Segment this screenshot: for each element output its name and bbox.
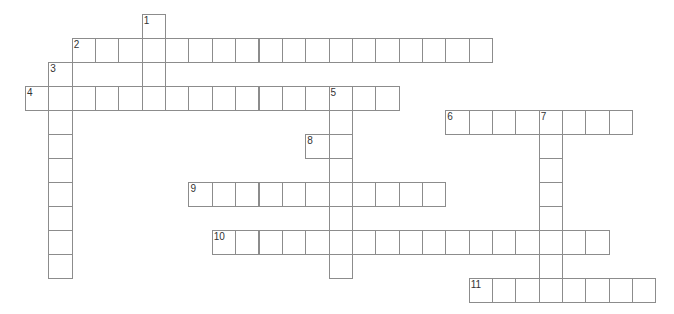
crossword-cell[interactable] [329, 182, 353, 207]
crossword-cell[interactable] [259, 230, 283, 255]
crossword-cell[interactable] [118, 38, 142, 63]
crossword-cell[interactable]: 8 [305, 134, 329, 159]
crossword-cell[interactable]: 3 [48, 62, 72, 87]
crossword-cell[interactable]: 10 [212, 230, 236, 255]
crossword-cell[interactable] [235, 230, 259, 255]
crossword-cell[interactable]: 1 [142, 14, 166, 39]
crossword-cell[interactable] [235, 38, 259, 63]
crossword-cell[interactable] [188, 38, 212, 63]
crossword-cell[interactable] [142, 62, 166, 87]
crossword-cell[interactable] [539, 206, 563, 231]
crossword-cell[interactable] [469, 230, 493, 255]
crossword-cell[interactable] [142, 38, 166, 63]
crossword-cell[interactable] [399, 230, 423, 255]
crossword-cell[interactable] [329, 134, 353, 159]
crossword-cell[interactable] [352, 230, 376, 255]
crossword-cell[interactable] [142, 86, 166, 111]
crossword-cell[interactable] [48, 86, 72, 111]
crossword-cell[interactable] [422, 182, 446, 207]
crossword-cell[interactable] [445, 230, 469, 255]
crossword-cell[interactable] [585, 278, 609, 303]
crossword-cell[interactable] [399, 38, 423, 63]
crossword-cell[interactable] [305, 86, 329, 111]
crossword-cell[interactable] [469, 38, 493, 63]
crossword-cell[interactable] [329, 254, 353, 279]
crossword-cell[interactable] [305, 182, 329, 207]
crossword-cell[interactable]: 7 [539, 110, 563, 135]
crossword-cell[interactable]: 5 [329, 86, 353, 111]
crossword-cell[interactable] [352, 38, 376, 63]
crossword-cell[interactable] [48, 206, 72, 231]
crossword-cell[interactable] [95, 38, 119, 63]
crossword-cell[interactable] [95, 86, 119, 111]
crossword-cell[interactable] [632, 278, 656, 303]
crossword-cell[interactable]: 2 [72, 38, 96, 63]
crossword-cell[interactable] [329, 38, 353, 63]
crossword-cell[interactable] [118, 86, 142, 111]
crossword-cell[interactable]: 6 [445, 110, 469, 135]
clue-number: 9 [190, 183, 196, 194]
crossword-cell[interactable] [422, 38, 446, 63]
crossword-cell[interactable] [212, 38, 236, 63]
crossword-cell[interactable] [469, 110, 493, 135]
crossword-cell[interactable] [235, 182, 259, 207]
crossword-cell[interactable]: 9 [188, 182, 212, 207]
crossword-cell[interactable] [282, 230, 306, 255]
crossword-cell[interactable] [259, 38, 283, 63]
crossword-cell[interactable] [375, 230, 399, 255]
crossword-cell[interactable] [375, 182, 399, 207]
crossword-cell[interactable] [445, 38, 469, 63]
crossword-cell[interactable] [352, 182, 376, 207]
crossword-cell[interactable] [48, 230, 72, 255]
crossword-cell[interactable] [282, 86, 306, 111]
crossword-cell[interactable] [515, 110, 539, 135]
crossword-cell[interactable] [352, 86, 376, 111]
crossword-cell[interactable] [515, 230, 539, 255]
crossword-cell[interactable] [329, 158, 353, 183]
crossword-cell[interactable] [48, 182, 72, 207]
crossword-cell[interactable] [165, 38, 189, 63]
crossword-cell[interactable] [329, 110, 353, 135]
crossword-cell[interactable] [585, 230, 609, 255]
crossword-cell[interactable] [539, 158, 563, 183]
crossword-cell[interactable] [399, 182, 423, 207]
crossword-cell[interactable] [562, 110, 586, 135]
crossword-cell[interactable] [539, 278, 563, 303]
crossword-cell[interactable] [539, 182, 563, 207]
crossword-cell[interactable] [609, 110, 633, 135]
crossword-cell[interactable] [492, 278, 516, 303]
crossword-cell[interactable] [539, 134, 563, 159]
crossword-cell[interactable] [562, 278, 586, 303]
crossword-cell[interactable] [562, 230, 586, 255]
crossword-cell[interactable]: 4 [25, 86, 49, 111]
crossword-cell[interactable] [539, 254, 563, 279]
crossword-cell[interactable] [282, 38, 306, 63]
crossword-cell[interactable] [48, 134, 72, 159]
crossword-cell[interactable] [585, 110, 609, 135]
crossword-cell[interactable] [48, 254, 72, 279]
crossword-cell[interactable] [48, 110, 72, 135]
crossword-cell[interactable] [492, 110, 516, 135]
crossword-cell[interactable] [259, 86, 283, 111]
crossword-cell[interactable] [375, 86, 399, 111]
crossword-cell[interactable] [329, 230, 353, 255]
crossword-cell[interactable] [235, 86, 259, 111]
crossword-cell[interactable] [422, 230, 446, 255]
crossword-cell[interactable] [188, 86, 212, 111]
crossword-cell[interactable] [212, 86, 236, 111]
crossword-cell[interactable] [48, 158, 72, 183]
crossword-cell[interactable] [305, 230, 329, 255]
crossword-cell[interactable] [72, 86, 96, 111]
crossword-cell[interactable] [329, 206, 353, 231]
crossword-cell[interactable]: 11 [469, 278, 493, 303]
crossword-cell[interactable] [259, 182, 283, 207]
crossword-cell[interactable] [492, 230, 516, 255]
crossword-cell[interactable] [305, 38, 329, 63]
crossword-cell[interactable] [375, 38, 399, 63]
crossword-cell[interactable] [515, 278, 539, 303]
crossword-cell[interactable] [212, 182, 236, 207]
crossword-cell[interactable] [609, 278, 633, 303]
crossword-cell[interactable] [165, 86, 189, 111]
crossword-cell[interactable] [539, 230, 563, 255]
crossword-cell[interactable] [282, 182, 306, 207]
